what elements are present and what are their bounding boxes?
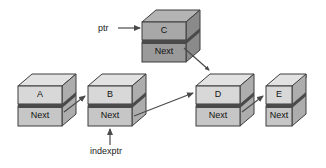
indexptr-label: indexptr [90,146,122,156]
node-d [196,74,254,126]
node-a-data-face [18,86,62,104]
node-e-data-face [266,86,292,104]
node-a [18,74,76,126]
node-a-next-face [18,106,62,126]
diagram-canvas [0,0,326,168]
node-b [88,74,146,126]
node-e-next-face [266,106,292,126]
node-b-data-face [88,86,132,104]
node-c-next-face [142,42,186,62]
node-c-data-face [142,22,186,40]
node-e [266,74,306,126]
linked-list-diagram: C Next A Next B Next D Next E Next ptr i… [0,0,326,168]
ptr-label: ptr [98,23,109,33]
node-b-next-face [88,106,132,126]
node-d-next-face [196,106,240,126]
node-d-data-face [196,86,240,104]
